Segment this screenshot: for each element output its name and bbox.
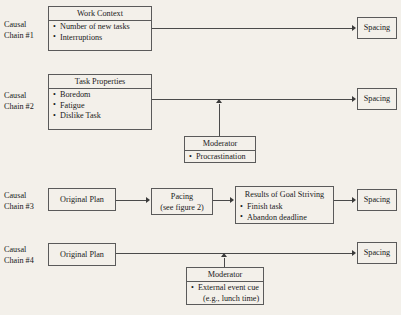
pacing-label: Pacing <box>152 189 212 203</box>
results-title: Results of Goal Striving <box>236 187 333 201</box>
moderator-2-title: Moderator <box>187 268 263 282</box>
list-item: External event cue <box>191 283 261 294</box>
spacing-label-4: Spacing <box>358 243 396 259</box>
arrow-results-to-spacing <box>352 197 356 203</box>
original-plan-label-4: Original Plan <box>49 244 115 261</box>
work-context-items: Number of new tasks Interruptions <box>49 21 151 44</box>
list-item: Interruptions <box>53 33 149 44</box>
results-box: Results of Goal Striving Finish task Aba… <box>235 186 334 224</box>
connector-results-to-spacing <box>334 200 353 201</box>
chain-label-2: Causal Chain #2 <box>4 91 34 112</box>
chain-label-4: Causal Chain #4 <box>4 245 34 266</box>
chain-label-1: Causal Chain #1 <box>4 20 34 41</box>
connector-chain1 <box>152 28 353 29</box>
chain-label-2-line2: Chain #2 <box>4 102 34 113</box>
moderator-2-items: External event cue (e.g., lunch time) <box>187 282 263 305</box>
spacing-box-4: Spacing <box>357 242 397 264</box>
arrow-chain1-to-spacing <box>352 25 356 31</box>
list-item: Fatigue <box>53 101 149 112</box>
connector-moderator-1 <box>219 104 220 136</box>
work-context-title: Work Context <box>49 7 151 21</box>
connector-chain4 <box>116 253 353 254</box>
chain-label-2-line1: Causal <box>4 91 34 102</box>
task-properties-items: Boredom Fatigue Dislike Task <box>49 89 151 123</box>
arrow-plan-to-pacing <box>146 197 150 203</box>
connector-pacing-to-results <box>213 200 231 201</box>
original-plan-box-3: Original Plan <box>48 188 116 211</box>
arrow-moderator-1-up <box>216 99 222 103</box>
spacing-box-2: Spacing <box>357 88 397 110</box>
moderator-1-items: Procrastination <box>185 151 255 164</box>
chain-label-3-line2: Chain #3 <box>4 202 34 213</box>
task-properties-box: Task Properties Boredom Fatigue Dislike … <box>48 74 152 130</box>
figure-canvas: Causal Chain #1 Work Context Number of n… <box>0 0 401 315</box>
connector-plan-to-pacing <box>116 200 147 201</box>
arrow-moderator-2-up <box>221 253 227 257</box>
list-item: Boredom <box>53 90 149 101</box>
work-context-box: Work Context Number of new tasks Interru… <box>48 6 152 51</box>
spacing-label-2: Spacing <box>358 89 396 105</box>
connector-moderator-2 <box>224 258 225 267</box>
chain-label-4-line2: Chain #4 <box>4 256 34 267</box>
list-item: Finish task <box>240 202 331 213</box>
spacing-box-3: Spacing <box>357 189 397 211</box>
list-item: Procrastination <box>189 152 253 163</box>
moderator-1-title: Moderator <box>185 137 255 151</box>
connector-chain2 <box>152 99 353 100</box>
chain-label-3: Causal Chain #3 <box>4 191 34 212</box>
results-items: Finish task Abandon deadline <box>236 201 333 224</box>
list-item: Dislike Task <box>53 111 149 122</box>
list-item-continuation: (e.g., lunch time) <box>191 294 261 305</box>
original-plan-label-3: Original Plan <box>49 189 115 206</box>
pacing-box: Pacing (see figure 2) <box>151 188 213 215</box>
chain-label-1-line2: Chain #1 <box>4 31 34 42</box>
list-item: Abandon deadline <box>240 213 331 224</box>
arrow-pacing-to-results <box>230 197 234 203</box>
original-plan-box-4: Original Plan <box>48 243 116 266</box>
pacing-sublabel: (see figure 2) <box>152 203 212 214</box>
arrow-chain4-to-spacing <box>352 250 356 256</box>
spacing-box-1: Spacing <box>357 17 397 39</box>
task-properties-title: Task Properties <box>49 75 151 89</box>
chain-label-3-line1: Causal <box>4 191 34 202</box>
moderator-box-1: Moderator Procrastination <box>184 136 256 163</box>
moderator-box-2: Moderator External event cue (e.g., lunc… <box>186 267 264 305</box>
list-item: Number of new tasks <box>53 22 149 33</box>
arrow-chain2-to-spacing <box>352 96 356 102</box>
spacing-label-1: Spacing <box>358 18 396 34</box>
spacing-label-3: Spacing <box>358 190 396 206</box>
chain-label-4-line1: Causal <box>4 245 34 256</box>
chain-label-1-line1: Causal <box>4 20 34 31</box>
